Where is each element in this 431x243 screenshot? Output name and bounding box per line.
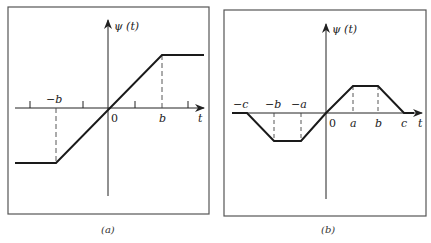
panel-b-x-label: t <box>418 117 423 130</box>
panel-a-psi-curve <box>15 55 204 163</box>
panel-b-tick-c: c <box>401 117 407 130</box>
panel-b-y-label: ψ (t) <box>332 23 357 36</box>
panel-a-tick-neg-b: −b <box>46 93 62 106</box>
panel-a-origin-label: 0 <box>111 112 118 125</box>
panel-b-tick-neg-a: −a <box>291 98 307 111</box>
figure-canvas: ψ (t) t 0 −b b (a) ψ (t) t 0 −c −b −a a … <box>0 0 431 243</box>
panel-b-caption: (b) <box>321 224 335 235</box>
panel-a-y-label: ψ (t) <box>114 20 139 33</box>
panel-b-tick-neg-b: −b <box>265 98 281 111</box>
panel-a-caption: (a) <box>101 224 115 235</box>
panel-b-tick-b: b <box>375 117 382 130</box>
panel-b: ψ (t) t 0 −c −b −a a b c (b) <box>224 10 426 235</box>
panel-a-tick-b: b <box>159 112 166 125</box>
panel-b-tick-a: a <box>350 117 357 130</box>
panel-a-x-label: t <box>198 112 203 125</box>
panel-b-origin-label: 0 <box>329 117 336 130</box>
panel-a: ψ (t) t 0 −b b (a) <box>8 7 209 235</box>
panel-b-tick-neg-c: −c <box>233 98 248 111</box>
